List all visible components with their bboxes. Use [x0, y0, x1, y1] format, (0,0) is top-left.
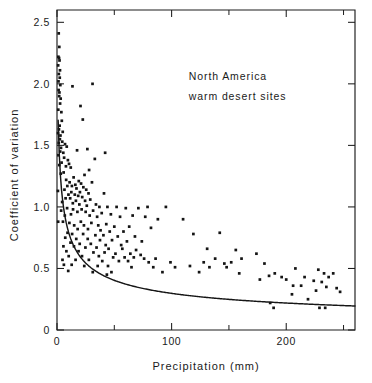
- data-point: [76, 228, 79, 231]
- data-point: [150, 227, 153, 230]
- y-tick-label-0: 0: [44, 324, 50, 336]
- data-point: [85, 188, 88, 191]
- data-point: [99, 229, 102, 232]
- data-point: [315, 289, 318, 292]
- x-axis-title: Precipitation (mm): [152, 360, 259, 372]
- y-tick-label-2.0: 2.0: [34, 78, 50, 90]
- data-point: [137, 207, 140, 210]
- data-point: [87, 192, 90, 195]
- data-point: [78, 203, 81, 206]
- scatter-plot: 0100200 00.51.01.52.02.5 North Americawa…: [0, 0, 372, 383]
- data-point: [88, 214, 91, 217]
- data-point: [263, 262, 266, 265]
- data-point: [161, 271, 164, 274]
- data-point: [72, 176, 75, 179]
- data-point: [61, 131, 64, 134]
- data-point: [64, 236, 67, 239]
- data-point: [165, 206, 168, 209]
- data-point: [120, 244, 123, 247]
- data-point: [324, 307, 327, 310]
- data-point: [113, 225, 116, 228]
- data-point: [94, 234, 97, 237]
- data-point: [169, 261, 172, 264]
- data-point: [121, 247, 124, 250]
- data-point: [57, 64, 60, 67]
- data-point: [107, 247, 110, 250]
- data-point: [58, 57, 61, 60]
- data-point: [65, 179, 68, 182]
- data-point: [75, 187, 78, 190]
- x-axis-tick-labels: 0100200: [54, 335, 296, 347]
- data-point: [218, 231, 221, 234]
- data-point: [312, 279, 315, 282]
- data-point: [95, 246, 98, 249]
- data-point: [68, 163, 71, 166]
- data-point: [230, 261, 233, 264]
- y-axis-title: Coefficient of variation: [8, 109, 20, 242]
- data-point: [57, 32, 60, 35]
- y-tick-label-1.5: 1.5: [34, 139, 50, 151]
- data-point: [240, 257, 243, 260]
- data-point: [62, 245, 65, 248]
- data-point: [71, 85, 74, 88]
- data-point: [97, 224, 100, 227]
- data-point: [69, 197, 72, 200]
- data-point: [95, 203, 98, 206]
- data-point: [332, 272, 335, 275]
- data-point: [92, 251, 95, 254]
- data-point: [272, 307, 275, 310]
- data-point: [318, 307, 321, 310]
- y-tick-label-1.0: 1.0: [34, 201, 50, 213]
- data-point: [84, 211, 87, 214]
- data-point: [91, 83, 94, 86]
- data-point: [70, 213, 73, 216]
- plot-annotations: North Americawarm desert sites: [188, 70, 287, 102]
- data-point: [77, 180, 80, 183]
- data-point: [128, 225, 131, 228]
- data-point: [57, 108, 60, 111]
- data-point: [57, 190, 60, 193]
- data-point: [60, 161, 63, 164]
- data-point: [112, 256, 115, 259]
- data-point: [106, 206, 109, 209]
- data-point: [80, 208, 83, 211]
- data-point: [129, 252, 132, 255]
- data-point: [71, 233, 74, 236]
- data-point: [134, 235, 137, 238]
- data-point: [84, 199, 87, 202]
- x-tick-label-100: 100: [162, 335, 181, 347]
- data-point: [320, 281, 323, 284]
- data-point: [255, 252, 258, 255]
- data-point: [103, 192, 106, 195]
- x-tick-label-0: 0: [54, 335, 60, 347]
- data-point: [73, 193, 76, 196]
- data-point: [102, 234, 105, 237]
- data-point: [108, 230, 111, 233]
- data-point: [65, 145, 68, 148]
- data-point: [80, 182, 83, 185]
- data-point: [83, 174, 86, 177]
- data-point: [86, 148, 89, 151]
- data-point: [285, 278, 288, 281]
- data-point: [82, 233, 85, 236]
- data-point: [58, 76, 61, 79]
- data-point: [91, 271, 94, 274]
- data-point: [74, 183, 77, 186]
- data-point: [189, 265, 192, 268]
- data-point: [58, 95, 61, 98]
- data-point: [152, 266, 155, 269]
- data-point: [63, 156, 66, 159]
- data-point: [64, 143, 67, 146]
- data-point: [83, 265, 86, 268]
- data-point: [71, 185, 74, 188]
- data-point: [84, 246, 87, 249]
- data-point: [339, 291, 342, 294]
- data-point: [182, 218, 185, 221]
- data-point: [116, 235, 119, 238]
- data-point: [268, 275, 271, 278]
- data-point: [59, 69, 62, 72]
- data-point: [62, 220, 65, 223]
- data-point: [59, 84, 62, 87]
- data-point: [111, 239, 114, 242]
- data-point: [259, 278, 262, 281]
